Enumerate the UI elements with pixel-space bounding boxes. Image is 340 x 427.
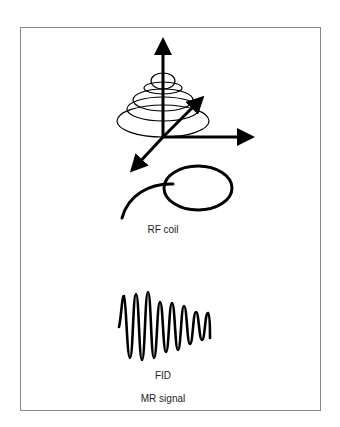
rf-coil-icon bbox=[122, 166, 232, 218]
fid-waveform-icon bbox=[119, 292, 210, 360]
mr-signal-label: MR signal bbox=[103, 393, 223, 404]
fid-label: FID bbox=[103, 370, 223, 381]
coordinate-axes-icon bbox=[136, 46, 246, 166]
rf-coil-label: RF coil bbox=[103, 224, 223, 235]
mr-diagram bbox=[0, 0, 340, 427]
